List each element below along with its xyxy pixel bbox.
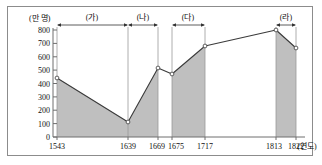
y-tick-label-0: 0 (46, 133, 50, 142)
population-line-chart: (만 명) 800 700 600 500 400 300 200 100 0 … (0, 0, 322, 165)
y-tick-label-800: 800 (38, 26, 50, 35)
bracket-arrow-ga-left (57, 23, 61, 27)
bracket-arrow-ra-left (276, 23, 280, 27)
period-label-na: (나) (137, 13, 150, 22)
y-axis-ticks (53, 30, 57, 137)
y-axis-unit-label: (만 명) (29, 13, 51, 23)
x-tick-label-1669: 1669 (149, 142, 165, 151)
x-tick-label-1675: 1675 (168, 142, 184, 151)
bracket-arrow-ga-right (124, 23, 128, 27)
data-point-1813 (274, 28, 278, 32)
shaded-period-bands (57, 26, 296, 137)
band-na (128, 26, 158, 137)
y-tick-label-300: 300 (38, 93, 50, 102)
data-point-1822 (294, 46, 298, 50)
y-tick-label-500: 500 (38, 66, 50, 75)
y-tick-label-200: 200 (38, 106, 50, 115)
y-tick-label-700: 700 (38, 39, 50, 48)
period-label-ga: (가) (86, 13, 99, 22)
bracket-arrow-na-left (128, 23, 132, 27)
period-label-ra: (라) (280, 13, 293, 22)
x-tick-label-1543: 1543 (49, 142, 65, 151)
bracket-arrow-na-right (154, 23, 158, 27)
x-tick-label-1717: 1717 (197, 142, 213, 151)
y-tick-label-400: 400 (38, 80, 50, 89)
band-ra (276, 26, 296, 137)
bracket-arrow-da-right (201, 23, 205, 27)
chart-svg: (만 명) 800 700 600 500 400 300 200 100 0 … (0, 0, 322, 165)
period-bracket-arrows (57, 23, 296, 27)
x-tick-label-1813: 1813 (266, 142, 282, 151)
bracket-arrow-da-left (172, 23, 176, 27)
x-axis-unit-label: (연도) (297, 142, 317, 151)
data-point-1717 (203, 44, 207, 48)
data-point-1669 (156, 66, 160, 70)
y-tick-label-600: 600 (38, 53, 50, 62)
bracket-arrow-ra-right (292, 23, 296, 27)
data-point-1543 (55, 76, 59, 80)
period-label-da: (다) (182, 13, 195, 22)
data-point-1639 (126, 120, 130, 124)
band-ga (57, 26, 128, 137)
y-tick-label-100: 100 (38, 120, 50, 129)
data-point-1675 (170, 72, 174, 76)
band-da (172, 26, 205, 137)
x-tick-label-1639: 1639 (120, 142, 136, 151)
